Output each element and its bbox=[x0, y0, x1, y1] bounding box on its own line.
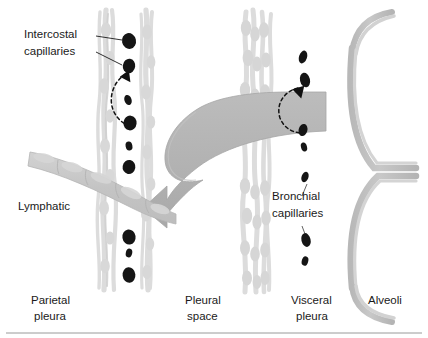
parietal-pleura-membrane bbox=[97, 10, 155, 290]
bottom-label-line2: pleura bbox=[34, 310, 67, 322]
bottom-label-line2: space bbox=[187, 310, 218, 322]
intercostal-capillary-blobs bbox=[120, 32, 137, 284]
bottom-label-line2: pleura bbox=[296, 310, 329, 322]
alveoli-walls bbox=[350, 12, 424, 322]
lymphatic-label: Lymphatic bbox=[18, 200, 70, 212]
bottom-label-parietal-pleura: Parietal pleura bbox=[31, 294, 70, 322]
bottom-label-line1: Pleural bbox=[185, 294, 221, 306]
bottom-labels: Parietal pleura Pleural space Visceral p… bbox=[31, 294, 402, 322]
bronchial-capillaries-line1: Bronchial bbox=[272, 190, 320, 202]
bronchial-capillaries-line2: capillaries bbox=[272, 207, 323, 219]
bottom-label-line1: Parietal bbox=[31, 294, 70, 306]
intercostal-capillaries-label: Intercostal capillaries bbox=[24, 28, 77, 57]
bottom-label-visceral-pleura: Visceral pleura bbox=[291, 294, 332, 322]
intercostal-capillaries-line1: Intercostal bbox=[24, 28, 77, 40]
diagram-canvas: Intercostal capillaries Lymphatic Bronch… bbox=[0, 0, 428, 338]
bronchial-capillaries-label: Bronchial capillaries bbox=[272, 190, 323, 219]
bottom-label-alveoli: Alveoli bbox=[368, 294, 402, 306]
visceral-pleura-membrane bbox=[240, 10, 272, 292]
bottom-label-pleural-space: Pleural space bbox=[185, 294, 221, 322]
pleural-space-diagram: Intercostal capillaries Lymphatic Bronch… bbox=[0, 0, 428, 338]
bottom-label-line1: Alveoli bbox=[368, 294, 402, 306]
bottom-label-line1: Visceral bbox=[291, 294, 332, 306]
intercostal-capillaries-line2: capillaries bbox=[24, 45, 75, 57]
